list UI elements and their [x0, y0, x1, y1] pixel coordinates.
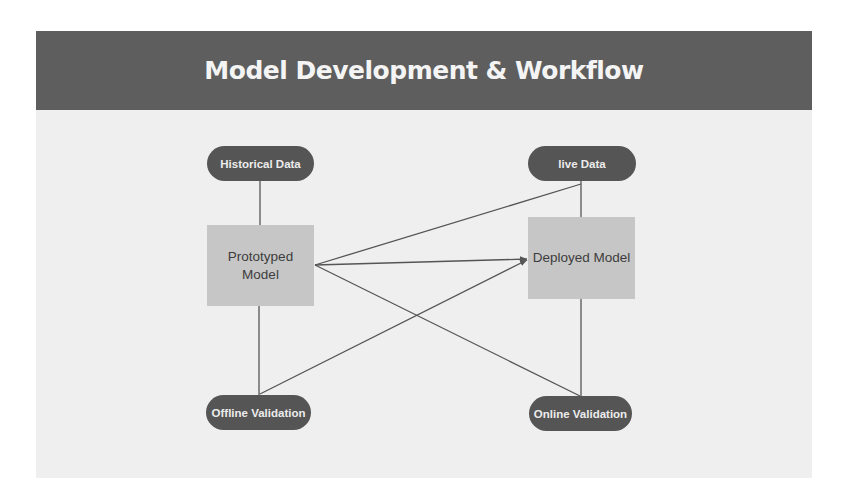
node-label: Online Validation — [534, 408, 627, 420]
edge-layer — [0, 0, 844, 502]
node-label-line2: Model — [242, 266, 279, 284]
node-historical-data: Historical Data — [207, 146, 314, 181]
node-label: Deployed Model — [533, 249, 631, 267]
node-online-validation: Online Validation — [529, 396, 632, 431]
edge-prototyped-to-deployed — [315, 259, 527, 265]
node-label: Historical Data — [220, 158, 301, 170]
node-label: live Data — [558, 158, 605, 170]
node-offline-validation: Offline Validation — [206, 395, 311, 430]
node-prototyped-model: Prototyped Model — [207, 225, 314, 306]
node-label: Offline Validation — [212, 407, 306, 419]
node-live-data: live Data — [528, 146, 636, 181]
node-deployed-model: Deployed Model — [528, 217, 635, 299]
node-label-line1: Prototyped — [228, 248, 293, 266]
